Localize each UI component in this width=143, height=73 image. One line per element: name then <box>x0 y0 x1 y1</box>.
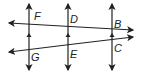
transversal-bottom <box>70 37 133 45</box>
label-B: B <box>114 18 121 30</box>
parallel-marker-icon <box>110 33 115 37</box>
parallel-lines-diagram: F D B G E C <box>0 0 143 73</box>
label-G: G <box>31 51 40 63</box>
label-E: E <box>70 48 78 60</box>
transversal-top <box>70 27 133 31</box>
transversal-top <box>9 23 70 27</box>
parallel-marker-icon <box>66 33 71 37</box>
label-C: C <box>114 42 122 54</box>
point-labels: F D B G E C <box>31 10 122 63</box>
parallel-markers <box>27 33 115 37</box>
parallel-marker-icon <box>27 33 32 37</box>
label-D: D <box>70 13 78 25</box>
label-F: F <box>34 10 42 22</box>
